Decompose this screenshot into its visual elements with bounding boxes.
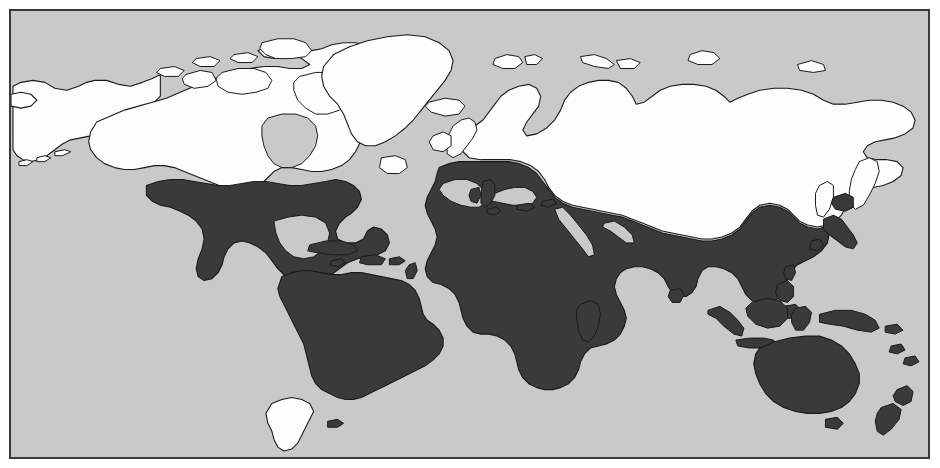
world-map-svg	[11, 11, 928, 457]
region-newfoundland	[379, 156, 407, 174]
region-ellesmere-island	[260, 39, 312, 59]
region-sri-lanka	[668, 289, 684, 303]
map-frame	[9, 9, 930, 459]
world-map-figure	[0, 0, 940, 468]
